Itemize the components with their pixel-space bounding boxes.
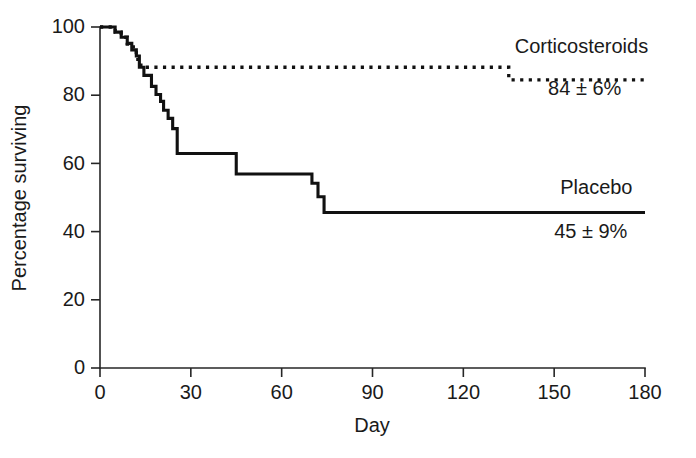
annotation-placebo-value: 45 ± 9% — [554, 220, 627, 242]
y-axis-title: Percentage surviving — [8, 105, 30, 292]
y-tick-label-0: 0 — [74, 356, 85, 378]
annotation-corticosteroids-name: Corticosteroids — [515, 35, 648, 57]
annotation-corticosteroids-value: 84 ± 6% — [548, 77, 621, 99]
x-tick-label-180: 180 — [628, 381, 661, 403]
y-tick-label-100: 100 — [52, 15, 85, 37]
y-tick-label-80: 80 — [63, 83, 85, 105]
x-axis-title: Day — [354, 414, 390, 436]
x-tick-label-30: 30 — [180, 381, 202, 403]
x-tick-label-120: 120 — [447, 381, 480, 403]
survival-curve-figure: 020406080100 0306090120150180 Percentage… — [0, 0, 696, 458]
x-tick-label-150: 150 — [537, 381, 570, 403]
y-tick-label-20: 20 — [63, 288, 85, 310]
annotation-placebo-name: Placebo — [560, 176, 632, 198]
x-axis-ticks: 0306090120150180 — [94, 368, 661, 403]
y-tick-label-40: 40 — [63, 220, 85, 242]
x-tick-label-90: 90 — [361, 381, 383, 403]
chart-canvas: 020406080100 0306090120150180 Percentage… — [0, 0, 696, 458]
y-tick-label-60: 60 — [63, 152, 85, 174]
x-tick-label-60: 60 — [271, 381, 293, 403]
x-tick-label-0: 0 — [94, 381, 105, 403]
y-axis-ticks: 020406080100 — [52, 15, 100, 378]
